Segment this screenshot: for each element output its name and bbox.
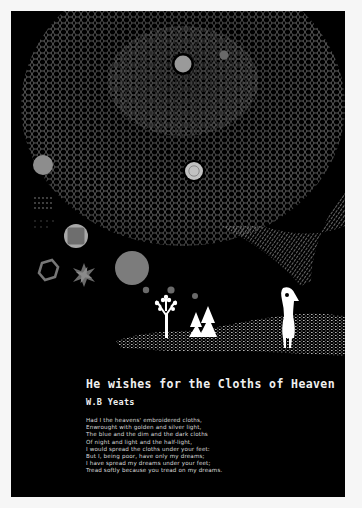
tiny-moon-1 — [143, 287, 149, 293]
poem-title: He wishes for the Cloths of Heaven — [86, 377, 335, 391]
poem-block: He wishes for the Cloths of Heaven W.B Y… — [86, 377, 335, 475]
poem-line: But I, being poor, have only my dreams; — [86, 453, 335, 460]
poem-line: I would spread the cloths under your fee… — [86, 446, 335, 453]
poem-line: The blue and the dim and the dark cloths — [86, 431, 335, 438]
poem-line: Tread softly because you tread on my dre… — [86, 467, 335, 474]
hexagon-ring — [39, 260, 58, 280]
poem-lines: Had I the heavens' embroidered cloths, E… — [86, 417, 335, 475]
star-flower — [72, 263, 95, 287]
poem-author: W.B Yeats — [86, 397, 335, 407]
square-in-circle — [64, 224, 88, 248]
large-grey-moon — [115, 251, 149, 285]
poster: He wishes for the Cloths of Heaven W.B Y… — [11, 11, 345, 497]
grey-disc-left — [33, 155, 53, 175]
poem-line: I have spread my dreams under your feet; — [86, 460, 335, 467]
poem-line: Enwrought with golden and silver light, — [86, 424, 335, 431]
poem-line: Of night and light and the half-light, — [86, 439, 335, 446]
dot-grid — [34, 197, 54, 228]
poem-line: Had I the heavens' embroidered cloths, — [86, 417, 335, 424]
tiny-moon-2 — [167, 286, 174, 293]
small-planet-top — [220, 51, 229, 60]
ground-hills — [116, 314, 345, 357]
pine-trees — [189, 306, 217, 337]
tiny-moon-3 — [192, 293, 198, 299]
